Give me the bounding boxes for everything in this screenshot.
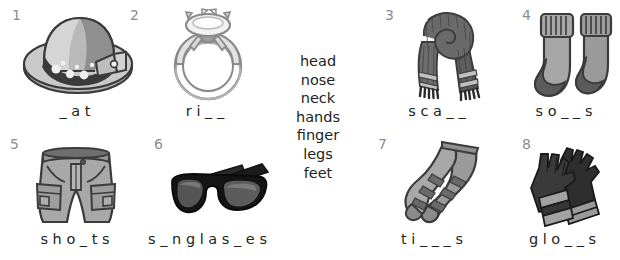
tights-icon (398, 138, 488, 230)
item-answer-2: r i _ _ (130, 104, 280, 119)
item-answer-1: _ a t (0, 104, 150, 119)
item-5: 5 (0, 130, 150, 260)
item-4: 4 (508, 0, 620, 130)
worksheet-canvas: 1 (0, 0, 620, 260)
item-number-5: 5 (10, 137, 19, 151)
item-7: 7 (366, 130, 498, 260)
shorts-icon (27, 140, 125, 230)
word-bank-item: hands (278, 108, 358, 127)
item-number-2: 2 (130, 8, 139, 22)
item-number-3: 3 (385, 8, 394, 22)
item-answer-6: s _ n g l a s _ e s (130, 232, 285, 247)
word-bank-item: feet (278, 164, 358, 183)
word-bank-item: nose (278, 71, 358, 90)
socks-icon (528, 6, 616, 102)
item-number-1: 1 (12, 8, 21, 22)
item-answer-8: g l o _ _ s (505, 232, 620, 247)
item-answer-5: s h o _ t s (0, 232, 150, 247)
word-bank-item: finger (278, 126, 358, 145)
item-answer-4: s o _ _ s (508, 104, 620, 119)
body-parts-word-bank: head nose neck hands finger legs feet (278, 52, 358, 182)
word-bank-item: legs (278, 145, 358, 164)
scarf-icon (410, 6, 486, 102)
item-3: 3 (372, 0, 502, 130)
item-answer-3: s c a _ _ (372, 104, 502, 119)
item-1: 1 (0, 0, 150, 130)
ring-icon (162, 6, 254, 102)
sunglasses-icon (168, 162, 276, 224)
item-answer-7: t i _ _ _ s (366, 232, 498, 247)
item-number-7: 7 (378, 137, 387, 151)
hat-icon (22, 12, 134, 96)
item-8: 8 (505, 130, 620, 260)
word-bank-item: neck (278, 89, 358, 108)
item-6: 6 s _ n g l a s _ e s (130, 130, 285, 260)
word-bank-item: head (278, 52, 358, 71)
item-2: 2 r i _ _ (130, 0, 280, 130)
gloves-icon (521, 142, 615, 230)
item-number-6: 6 (154, 137, 163, 151)
